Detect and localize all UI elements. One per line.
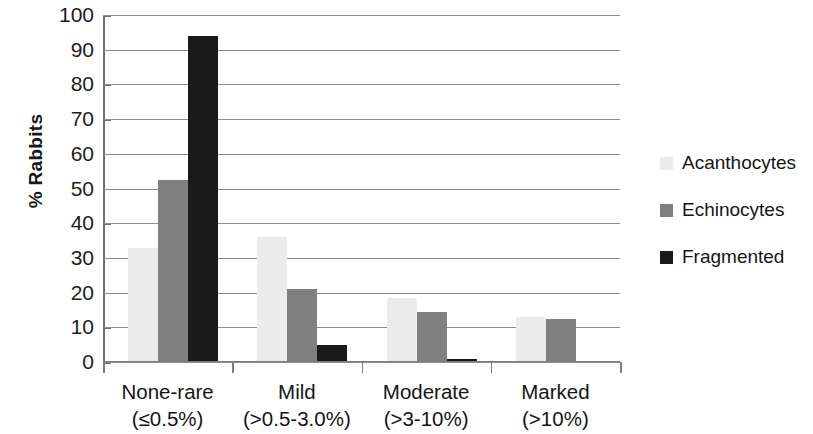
y-tick-label-0: 0: [50, 350, 94, 374]
bar-1-0: [158, 180, 188, 362]
category-label-primary: Mild: [278, 380, 316, 403]
legend-label: Fragmented: [682, 246, 784, 268]
category-tick-4: [620, 362, 622, 373]
category-label-3: Marked(>10%): [491, 378, 620, 432]
category-label-primary: None-rare: [121, 380, 213, 403]
bar-0-3: [516, 317, 546, 362]
bar-1-1: [287, 289, 317, 362]
y-tick-label-80: 80: [50, 72, 94, 96]
legend-item-acanthocytes[interactable]: Acanthocytes: [660, 152, 796, 174]
bar-0-0: [128, 248, 158, 363]
bars-layer: [103, 15, 620, 362]
category-label-range: (>3-10%): [362, 405, 491, 432]
category-label-range: (>10%): [491, 405, 620, 432]
category-label-1: Mild(>0.5-3.0%): [232, 378, 361, 432]
category-label-range: (≤0.5%): [103, 405, 232, 432]
legend-item-echinocytes[interactable]: Echinocytes: [660, 199, 784, 221]
legend-swatch-icon: [660, 157, 673, 170]
category-tick-3: [491, 362, 493, 373]
bar-0-2: [387, 298, 417, 362]
category-tick-2: [362, 362, 364, 373]
legend-swatch-icon: [660, 204, 673, 217]
legend-label: Echinocytes: [682, 199, 784, 221]
category-label-primary: Moderate: [383, 380, 470, 403]
y-tick-label-70: 70: [50, 107, 94, 131]
legend-swatch-icon: [660, 251, 673, 264]
category-tick-1: [232, 362, 234, 373]
bar-2-1: [317, 345, 347, 362]
bar-0-1: [257, 237, 287, 362]
y-tick-label-10: 10: [50, 315, 94, 339]
y-tick-label-90: 90: [50, 38, 94, 62]
category-tick-0: [103, 362, 105, 373]
y-tick-label-50: 50: [50, 177, 94, 201]
category-label-2: Moderate(>3-10%): [362, 378, 491, 432]
y-axis-tick-labels: 1009080706050403020100: [42, 15, 94, 362]
bar-1-3: [546, 319, 576, 362]
bar-1-2: [417, 312, 447, 362]
y-tick-label-100: 100: [50, 3, 94, 27]
bar-2-0: [188, 36, 218, 362]
y-tick-label-40: 40: [50, 211, 94, 235]
category-label-range: (>0.5-3.0%): [232, 405, 361, 432]
category-label-0: None-rare(≤0.5%): [103, 378, 232, 432]
y-tick-label-60: 60: [50, 142, 94, 166]
legend-item-fragmented[interactable]: Fragmented: [660, 246, 784, 268]
category-label-primary: Marked: [521, 380, 589, 403]
y-tick-label-20: 20: [50, 281, 94, 305]
y-tick-label-30: 30: [50, 246, 94, 270]
plot-area: [103, 15, 620, 362]
legend-label: Acanthocytes: [682, 152, 796, 174]
bar-chart: % Rabbits 1009080706050403020100 None-ra…: [0, 0, 813, 434]
